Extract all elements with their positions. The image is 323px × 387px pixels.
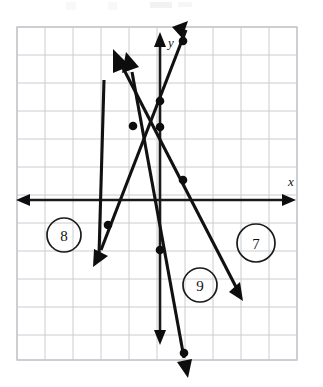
y-axis-arrow-up bbox=[154, 32, 166, 47]
pt-line9-upper bbox=[156, 97, 165, 106]
line-7 bbox=[113, 49, 243, 301]
y-axis bbox=[154, 32, 166, 345]
pt-line7-upper-left bbox=[129, 122, 138, 131]
pt-line7-right bbox=[179, 176, 188, 185]
pt-line9-bottom bbox=[180, 349, 189, 358]
callout-9: 9 bbox=[183, 268, 217, 302]
x-axis-label: x bbox=[287, 174, 294, 189]
figure-canvas: x y 8 9 7 bbox=[0, 0, 323, 387]
y-axis-arrow-down bbox=[154, 330, 166, 345]
pt-line7-top-right bbox=[179, 37, 188, 46]
line-8 bbox=[93, 21, 188, 267]
line-9-arrow-down-right bbox=[177, 359, 192, 378]
line-8-arrow-up-right bbox=[172, 21, 188, 38]
callout-7-label: 7 bbox=[252, 236, 260, 252]
callout-8-label: 8 bbox=[60, 228, 68, 244]
x-axis-arrow-right bbox=[282, 194, 296, 206]
y-axis-label: y bbox=[166, 35, 174, 50]
x-axis-arrow-left bbox=[16, 194, 30, 206]
grid-lines bbox=[17, 27, 297, 360]
pt-line7-mid bbox=[156, 123, 165, 132]
callout-9-label: 9 bbox=[196, 278, 204, 294]
pt-line9-lower bbox=[156, 246, 165, 255]
pt-line8-left bbox=[104, 221, 113, 230]
coordinate-plane: x y 8 9 7 bbox=[0, 0, 323, 387]
